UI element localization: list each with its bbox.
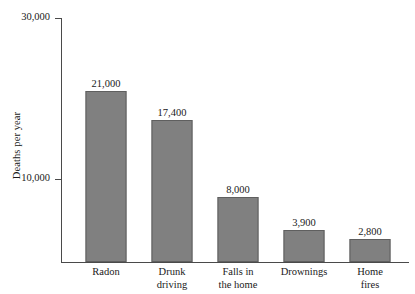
bar-group-drownings: 3,900 [271, 18, 337, 262]
x-axis-line [61, 262, 409, 263]
bar-drunk-driving[interactable] [152, 120, 193, 262]
x-label-home-fires-line1: Home [330, 266, 410, 279]
x-label-home-fires-line2: fires [330, 279, 410, 292]
bar-group-falls-in-the-home: 8,000 [205, 18, 271, 262]
bar-radon[interactable] [86, 91, 127, 262]
bar-falls-in-the-home[interactable] [218, 197, 259, 262]
bar-drownings[interactable] [284, 230, 325, 262]
plot-area: 21,000 17,400 8,000 3,900 2,800 [61, 18, 409, 262]
y-axis-title: Deaths per year [11, 86, 22, 206]
bar-group-home-fires: 2,800 [337, 18, 403, 262]
bar-value-drownings: 3,900 [292, 217, 316, 228]
bar-value-falls-in-the-home: 8,000 [226, 184, 250, 195]
bar-home-fires[interactable] [350, 239, 391, 262]
bar-chart: Deaths per year 30,000 10,000 21,000 17,… [0, 0, 415, 294]
y-tick-label-10000: 10,000 [21, 172, 50, 183]
x-label-home-fires: Home fires [330, 266, 410, 291]
bar-value-radon: 21,000 [92, 78, 121, 89]
bar-value-drunk-driving: 17,400 [158, 107, 187, 118]
y-tick-label-30000: 30,000 [21, 11, 50, 22]
x-label-falls-in-the-home-line2: the home [198, 279, 278, 292]
bar-group-drunk-driving: 17,400 [139, 18, 205, 262]
bar-group-radon: 21,000 [73, 18, 139, 262]
bar-value-home-fires: 2,800 [358, 226, 382, 237]
